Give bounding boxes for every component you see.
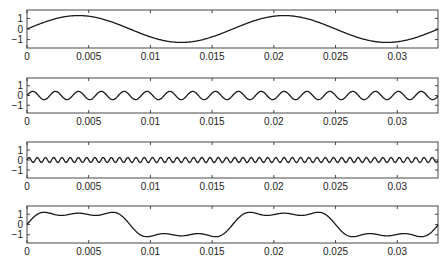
series-line [27, 91, 438, 99]
x-tick-label: 0.025 [323, 116, 348, 127]
y-tick-label: −1 [12, 165, 24, 176]
x-tick-label: 0.01 [141, 246, 161, 257]
x-tick-label: 0.025 [323, 246, 348, 257]
x-tick-label: 0.03 [388, 181, 408, 192]
x-tick-label: 0.015 [200, 246, 225, 257]
y-tick-label: 0 [17, 24, 23, 35]
x-tick-label: 0.01 [141, 116, 161, 127]
x-tick-label: 0.02 [264, 246, 284, 257]
x-tick-label: 0 [24, 181, 30, 192]
x-tick-label: 0 [24, 246, 30, 257]
panel-third-harmonic: 00.0050.010.0150.020.0250.0310−1 [12, 78, 438, 127]
x-tick-label: 0.03 [388, 246, 408, 257]
x-tick-label: 0.005 [76, 246, 101, 257]
x-tick-label: 0.015 [200, 116, 225, 127]
x-tick-label: 0.005 [76, 116, 101, 127]
x-tick-label: 0.005 [76, 181, 101, 192]
harmonics-chart: 00.0050.010.0150.020.0250.0310−100.0050.… [0, 0, 447, 262]
x-tick-label: 0.015 [200, 181, 225, 192]
x-tick-label: 0.025 [323, 51, 348, 62]
series-line [27, 212, 438, 236]
panel-fifth-harmonic: 00.0050.010.0150.020.0250.0310−1 [12, 142, 438, 192]
panel-sum: 00.0050.010.0150.020.0250.0310−1 [12, 206, 438, 257]
x-tick-label: 0 [24, 116, 30, 127]
x-tick-label: 0 [24, 51, 30, 62]
x-tick-label: 0.01 [141, 181, 161, 192]
series-line [27, 16, 438, 43]
series-line [27, 157, 438, 162]
x-tick-label: 0.01 [141, 51, 161, 62]
x-tick-label: 0.005 [76, 51, 101, 62]
y-tick-label: −1 [12, 34, 24, 45]
y-tick-label: −1 [12, 229, 24, 240]
y-tick-label: 1 [17, 13, 23, 24]
x-tick-label: 0.025 [323, 181, 348, 192]
x-tick-label: 0.02 [264, 116, 284, 127]
panel-fundamental: 00.0050.010.0150.020.0250.0310−1 [12, 10, 438, 62]
x-tick-label: 0.03 [388, 116, 408, 127]
x-tick-label: 0.02 [264, 51, 284, 62]
x-tick-label: 0.015 [200, 51, 225, 62]
y-tick-label: −1 [12, 100, 24, 111]
x-tick-label: 0.03 [388, 51, 408, 62]
x-tick-label: 0.02 [264, 181, 284, 192]
